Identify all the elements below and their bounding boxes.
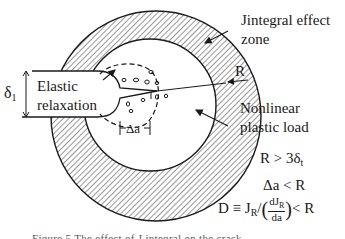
condition-1-text: R > 3δ (260, 150, 301, 166)
fraction-denominator: da (268, 212, 285, 223)
condition-3: D ≡ JR/(dJRda)< R (218, 196, 314, 223)
delta1-label: δ1 (4, 85, 17, 106)
j-zone-label: Jintegral effect zone (241, 12, 330, 47)
fraction-numerator-sub: R (279, 201, 284, 210)
j-zone-label-line2: zone (241, 31, 330, 47)
condition-1: R > 3δt (260, 150, 303, 168)
delta1-symbol: δ (4, 84, 12, 101)
elastic-label-line1: Elastic (37, 78, 97, 94)
elastic-label-line2: relaxation (37, 97, 97, 113)
figure-caption: Figure 5 The effect of J integral on the… (32, 232, 254, 239)
delta1-subscript: 1 (12, 92, 17, 103)
delta-a-label: Δa (126, 121, 140, 137)
condition-3-suffix: < R (292, 200, 314, 216)
nonlinear-label-line2: plastic load (240, 119, 309, 135)
condition-2: Δa < R (263, 177, 305, 194)
nonlinear-label-line1: Nonlinear (240, 100, 309, 116)
radius-label: R (235, 63, 245, 79)
plastic-zone-boundary (84, 39, 216, 171)
condition-1-sub: t (301, 157, 304, 168)
j-zone-label-line1: Jintegral effect (241, 12, 330, 28)
condition-3-fraction: dJRda (268, 196, 285, 223)
elastic-relaxation-label: Elastic relaxation (37, 78, 97, 113)
nonlinear-label: Nonlinear plastic load (240, 100, 309, 135)
condition-3-prefix: D ≡ J (218, 200, 251, 216)
fraction-numerator: dJ (269, 195, 279, 207)
